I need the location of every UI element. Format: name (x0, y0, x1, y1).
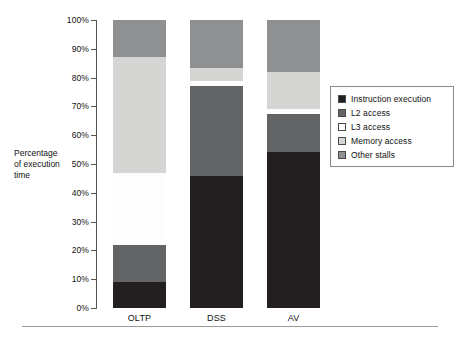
chart-figure: Percentage of execution time 0%10%20%30%… (0, 0, 460, 347)
y-tick-label: 80% (72, 73, 89, 83)
y-tick-mark (91, 20, 96, 21)
bar-segment-memory-access (267, 72, 320, 109)
y-tick-label: 90% (72, 44, 89, 54)
y-tick-mark (91, 78, 96, 79)
bar-segment-l2-access (190, 86, 243, 175)
y-axis-title-line-1: Percentage (14, 148, 94, 159)
bar-segment-memory-access (190, 68, 243, 81)
legend-swatch (338, 123, 346, 131)
legend-item-l3-access: L3 access (338, 121, 446, 132)
bar-oltp (113, 20, 166, 308)
bar-segment-other-stalls (190, 20, 243, 68)
bar-segment-l2-access (267, 114, 320, 153)
plot-area: OLTPDSSAV (97, 20, 325, 308)
y-tick-mark (91, 164, 96, 165)
bar-segment-l3-access (113, 173, 166, 245)
legend: Instruction executionL2 accessL3 accessM… (330, 86, 454, 167)
y-tick-label: 50% (72, 159, 89, 169)
y-tick-mark (91, 135, 96, 136)
legend-label: Instruction execution (351, 94, 431, 104)
bar-segment-instruction-execution (267, 152, 320, 308)
legend-item-other-stalls: Other stalls (338, 149, 446, 160)
legend-label: Memory access (351, 136, 412, 146)
legend-label: Other stalls (351, 150, 395, 160)
y-tick-mark (91, 308, 96, 309)
legend-label: L3 access (351, 122, 390, 132)
y-tick-mark (91, 279, 96, 280)
y-tick-mark (91, 106, 96, 107)
legend-item-l2-access: L2 access (338, 107, 446, 118)
y-tick-label: 100% (67, 15, 89, 25)
legend-swatch (338, 95, 346, 103)
y-tick-label: 40% (72, 188, 89, 198)
legend-swatch (338, 137, 346, 145)
legend-label: L2 access (351, 108, 390, 118)
footer-rule (22, 326, 438, 327)
y-tick-label: 60% (72, 130, 89, 140)
y-tick-label: 0% (77, 303, 90, 313)
legend-item-memory-access: Memory access (338, 135, 446, 146)
y-tick-label: 20% (72, 245, 89, 255)
bar-segment-instruction-execution (113, 282, 166, 308)
x-axis-label-av: AV (267, 313, 320, 323)
bar-segment-other-stalls (113, 20, 166, 57)
y-axis-title-line-3: time (14, 170, 94, 181)
x-axis-label-dss: DSS (190, 313, 243, 323)
bar-segment-l2-access (113, 245, 166, 282)
legend-rows: Instruction executionL2 accessL3 accessM… (338, 93, 446, 160)
bar-segment-other-stalls (267, 20, 320, 72)
y-tick-mark (91, 250, 96, 251)
legend-item-instruction-execution: Instruction execution (338, 93, 446, 104)
bar-segment-instruction-execution (190, 176, 243, 308)
y-tick-mark (91, 193, 96, 194)
legend-swatch (338, 151, 346, 159)
y-tick-label: 70% (72, 101, 89, 111)
bar-dss (190, 20, 243, 308)
bar-segment-memory-access (113, 57, 166, 172)
legend-swatch (338, 109, 346, 117)
x-axis-label-oltp: OLTP (113, 313, 166, 323)
y-tick-mark (91, 49, 96, 50)
y-tick-label: 10% (72, 274, 89, 284)
y-tick-mark (91, 222, 96, 223)
y-tick-label: 30% (72, 217, 89, 227)
bar-av (267, 20, 320, 308)
